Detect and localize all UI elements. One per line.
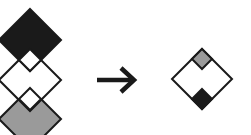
- right-arrow-icon: [97, 68, 134, 92]
- transformation-diagram: [0, 0, 251, 135]
- left-diamond-stack: [0, 9, 61, 135]
- result-diamond: [172, 49, 232, 109]
